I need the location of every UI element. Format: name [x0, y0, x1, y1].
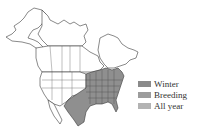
winter-swatch: [138, 81, 151, 87]
breeding-swatch: [138, 92, 151, 98]
legend-item-all-year: All year: [138, 101, 187, 111]
legend-label: All year: [154, 101, 183, 111]
legend-label: Winter: [154, 79, 179, 89]
legend: Winter Breeding All year: [138, 79, 187, 112]
legend-label: Breeding: [154, 90, 187, 100]
eastern-canada: [98, 34, 138, 68]
range-map: [0, 0, 197, 138]
legend-item-breeding: Breeding: [138, 90, 187, 100]
legend-item-winter: Winter: [138, 79, 187, 89]
all-year-swatch: [138, 103, 151, 109]
northern-canada: [38, 10, 88, 46]
